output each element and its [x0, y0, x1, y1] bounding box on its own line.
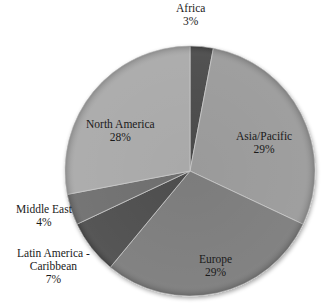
- label-latin-america-name-2: Caribbean: [17, 260, 90, 273]
- label-middle-east: Middle East 4%: [16, 203, 72, 229]
- label-europe: Europe 29%: [199, 253, 232, 279]
- label-europe-pct: 29%: [199, 266, 232, 279]
- label-north-america-pct: 28%: [86, 131, 155, 144]
- label-asia-pacific-pct: 29%: [236, 143, 292, 156]
- label-middle-east-pct: 4%: [16, 216, 72, 229]
- label-africa-pct: 3%: [176, 15, 205, 28]
- label-europe-name: Europe: [199, 253, 232, 266]
- label-asia-pacific-name: Asia/Pacific: [236, 130, 292, 143]
- label-north-america: North America 28%: [86, 118, 155, 144]
- label-latin-america-pct: 7%: [17, 273, 90, 286]
- label-africa: Africa 3%: [176, 2, 205, 28]
- label-asia-pacific: Asia/Pacific 29%: [236, 130, 292, 156]
- label-latin-america-name-1: Latin America -: [17, 247, 90, 260]
- label-latin-america: Latin America - Caribbean 7%: [17, 247, 90, 286]
- label-north-america-name: North America: [86, 118, 155, 131]
- label-middle-east-name: Middle East: [16, 203, 72, 216]
- label-africa-name: Africa: [176, 2, 205, 15]
